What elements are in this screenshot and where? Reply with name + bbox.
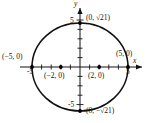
point-left-focus: [59, 65, 63, 69]
y-tick-label-5: 5: [70, 17, 74, 25]
label-bottom-vertex: (0, −√21): [86, 107, 114, 115]
label-right-vertex: (5, 0): [116, 50, 132, 58]
x-tick-label-minus5: -5: [27, 68, 33, 76]
x-tick-label-5: 5: [126, 68, 130, 76]
point-top-vertex: [78, 21, 82, 25]
x-axis-label: x: [133, 57, 136, 65]
label-left-focus: (−2, 0): [44, 72, 64, 80]
y-axis-label: y: [74, 0, 77, 8]
y-axis-arrowhead: [77, 8, 82, 14]
graph-canvas: [0, 0, 152, 123]
label-right-focus: (2, 0): [88, 72, 104, 80]
y-tick-label-minus5: -5: [68, 101, 74, 109]
x-axis: [20, 64, 142, 69]
label-left-vertex: (−5, 0): [2, 53, 22, 61]
ellipse-figure: y x 5 -5 -5 5 (0, √21) (0, −√21) (−5, 0)…: [0, 0, 152, 123]
point-right-focus: [97, 65, 101, 69]
label-top-vertex: (0, √21): [86, 14, 110, 22]
point-bottom-vertex: [78, 109, 82, 113]
x-axis-arrowhead: [136, 64, 142, 69]
